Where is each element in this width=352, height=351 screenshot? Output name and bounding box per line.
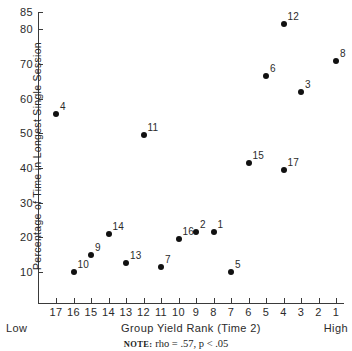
data-point (88, 252, 94, 258)
data-point-label: 12 (288, 12, 300, 22)
y-tick-label: 20 (5, 232, 33, 243)
x-axis-line (38, 303, 344, 304)
x-tick-mark (91, 298, 92, 303)
data-point-label: 8 (340, 49, 346, 59)
y-tick-label: 10 (5, 267, 33, 278)
figure-note: NOTE: rho = .57, p < .05 (0, 338, 352, 349)
x-tick-mark (144, 298, 145, 303)
x-tick-mark (179, 298, 180, 303)
data-point (71, 269, 77, 275)
data-point (193, 229, 199, 235)
data-point (211, 229, 217, 235)
data-point (123, 260, 129, 266)
note-keyword: NOTE: (124, 339, 153, 349)
data-point (263, 73, 269, 79)
y-tick-label: 40 (5, 163, 33, 174)
data-point (298, 89, 304, 95)
data-point-label: 5 (235, 260, 241, 270)
y-tick-mark (39, 12, 43, 13)
x-tick-mark (196, 298, 197, 303)
x-axis-high-label: High (324, 322, 348, 334)
data-point (53, 111, 59, 117)
x-tick-mark (336, 298, 337, 303)
data-point-label: 11 (148, 123, 159, 133)
data-point (106, 231, 112, 237)
data-point-label: 15 (253, 151, 265, 161)
x-tick-mark (301, 298, 302, 303)
x-tick-mark (74, 298, 75, 303)
data-point (141, 132, 147, 138)
y-axis-title: Percentage of Time in Longest Single Ses… (31, 31, 43, 281)
x-tick-mark (126, 298, 127, 303)
data-point (333, 58, 339, 64)
data-point (176, 236, 182, 242)
y-tick-label: 70 (5, 59, 33, 70)
x-tick-mark (319, 298, 320, 303)
x-tick-mark (56, 298, 57, 303)
x-tick-mark (284, 298, 285, 303)
y-tick-label: 60 (5, 94, 33, 105)
y-tick-label: 80 (5, 24, 33, 35)
data-point (281, 21, 287, 27)
y-tick-label: 50 (5, 128, 33, 139)
data-point (228, 269, 234, 275)
x-tick-mark (249, 298, 250, 303)
note-text: rho = .57, p < .05 (155, 338, 228, 349)
x-tick-mark (161, 298, 162, 303)
data-point-label: 1 (218, 220, 224, 230)
data-point-label: 17 (288, 158, 300, 168)
scatter-plot-figure: 858070605040302010 171615141312111098765… (0, 0, 352, 351)
data-point-label: 6 (270, 64, 276, 74)
x-tick-label: 1 (326, 306, 346, 318)
x-axis-title: Group Yield Rank (Time 2) (38, 322, 344, 334)
data-point-label: 13 (130, 251, 142, 261)
x-tick-mark (214, 298, 215, 303)
data-point-label: 9 (95, 243, 101, 253)
data-point-label: 3 (305, 80, 311, 90)
y-tick-label: 85 (5, 7, 33, 18)
data-point-label: 7 (165, 255, 171, 265)
data-point (281, 167, 287, 173)
x-axis-low-label: Low (6, 322, 27, 334)
data-point (246, 160, 252, 166)
x-tick-mark (266, 298, 267, 303)
x-tick-mark (231, 298, 232, 303)
data-point-label: 10 (78, 260, 90, 270)
data-point-label: 14 (113, 222, 125, 232)
data-point-label: 4 (60, 102, 66, 112)
data-point-label: 2 (200, 220, 206, 230)
x-tick-mark (109, 298, 110, 303)
y-tick-label: 30 (5, 198, 33, 209)
data-point (158, 264, 164, 270)
